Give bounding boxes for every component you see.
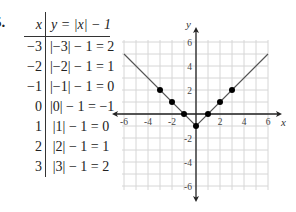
y-tick-label: 6 xyxy=(187,38,192,48)
data-point xyxy=(217,99,223,105)
data-point xyxy=(205,111,211,117)
x-tick-label: 2 xyxy=(218,117,223,127)
y-tick-label: -6 xyxy=(184,182,192,192)
coordinate-graph: xy-6-4-2246642-2-4-6 xyxy=(0,0,296,212)
y-axis-label: y xyxy=(185,18,191,30)
x-tick-label: -2 xyxy=(168,117,176,127)
data-point xyxy=(193,123,199,129)
x-tick-label: 4 xyxy=(242,117,247,127)
data-point xyxy=(169,99,175,105)
data-point xyxy=(229,87,235,93)
data-point xyxy=(181,111,187,117)
y-tick-label: -4 xyxy=(184,158,192,168)
x-tick-label: -4 xyxy=(144,117,152,127)
x-tick-label: 6 xyxy=(266,117,271,127)
x-axis-label: x xyxy=(280,116,286,128)
y-tick-label: -2 xyxy=(184,134,192,144)
y-tick-label: 2 xyxy=(187,86,192,96)
y-tick-label: 4 xyxy=(187,62,192,72)
x-tick-label: -6 xyxy=(120,117,128,127)
data-point xyxy=(157,87,163,93)
